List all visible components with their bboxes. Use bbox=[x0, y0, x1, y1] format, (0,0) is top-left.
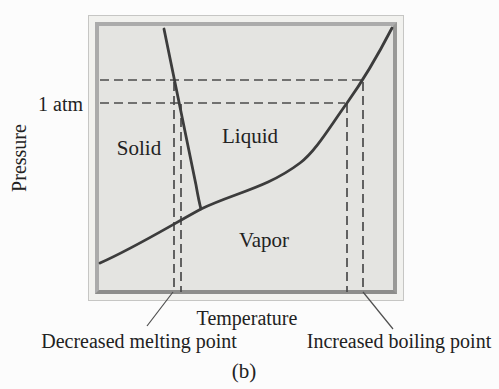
fusion-curve bbox=[164, 29, 201, 209]
vapor-region-label: Vapor bbox=[239, 229, 289, 252]
increased-boiling-point-annotation: Increased boiling point bbox=[307, 330, 491, 352]
y-axis-label: Pressure bbox=[8, 124, 30, 192]
solid-region-label: Solid bbox=[117, 137, 161, 160]
phase-diagram-figure: Pressure 1 atm Solid Liquid Vapor Temper… bbox=[0, 0, 499, 389]
decreased-melting-point-annotation: Decreased melting point bbox=[41, 330, 237, 352]
liquid-region-label: Liquid bbox=[222, 125, 278, 148]
one-atm-tick-label: 1 atm bbox=[38, 93, 83, 115]
boiling-leader-line bbox=[363, 292, 393, 329]
figure-caption: (b) bbox=[232, 360, 257, 383]
x-axis-label: Temperature bbox=[197, 307, 298, 329]
melting-leader-line bbox=[147, 292, 173, 326]
